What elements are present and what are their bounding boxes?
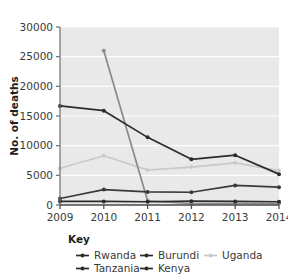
data-point: [277, 172, 281, 176]
data-point: [277, 185, 281, 189]
legend-label: Burundi: [158, 249, 199, 261]
data-point: [146, 200, 150, 204]
legend-marker-icon: [209, 254, 213, 258]
data-point: [102, 49, 106, 53]
y-axis-title: No. of deaths: [8, 76, 20, 156]
series-line: [60, 201, 279, 202]
x-tick-label: 2014: [266, 211, 288, 223]
data-point: [277, 200, 281, 204]
legend-label: Uganda: [222, 249, 263, 261]
x-tick-label: 2011: [134, 211, 161, 223]
data-point: [146, 168, 150, 172]
data-point: [146, 190, 150, 194]
data-point: [189, 199, 193, 203]
legend-label: Tanzania: [93, 262, 140, 274]
y-tick-label: 20000: [20, 80, 53, 92]
data-point: [233, 153, 237, 157]
data-point: [233, 199, 237, 203]
y-tick-label: 30000: [20, 21, 53, 33]
data-point: [102, 199, 106, 203]
data-point: [189, 165, 193, 169]
data-point: [102, 109, 106, 113]
legend-label: Kenya: [158, 262, 190, 274]
x-tick-label: 2010: [90, 211, 117, 223]
x-tick-label: 2012: [178, 211, 205, 223]
line-chart-figure: 050001000015000200002500030000 200920102…: [0, 0, 288, 280]
data-point: [277, 169, 281, 173]
legend-marker-icon: [81, 267, 85, 271]
data-point: [189, 190, 193, 194]
data-point: [146, 135, 150, 139]
data-point: [102, 154, 106, 158]
legend-label: Rwanda: [94, 249, 136, 261]
data-point: [233, 161, 237, 165]
data-point: [102, 188, 106, 192]
x-tick-label: 2013: [222, 211, 249, 223]
legend-marker-icon: [145, 254, 149, 258]
y-tick-label: 25000: [20, 50, 53, 62]
data-point: [233, 183, 237, 187]
legend-marker-icon: [145, 267, 149, 271]
y-tick-label: 15000: [20, 110, 53, 122]
y-tick-label: 5000: [26, 169, 53, 181]
data-point: [189, 157, 193, 161]
legend-title: Key: [68, 233, 90, 245]
legend-marker-icon: [81, 254, 85, 258]
y-tick-label: 0: [46, 199, 53, 211]
x-tick-label: 2009: [47, 211, 74, 223]
y-tick-label: 10000: [20, 139, 53, 151]
chart-svg: 050001000015000200002500030000 200920102…: [0, 0, 288, 280]
